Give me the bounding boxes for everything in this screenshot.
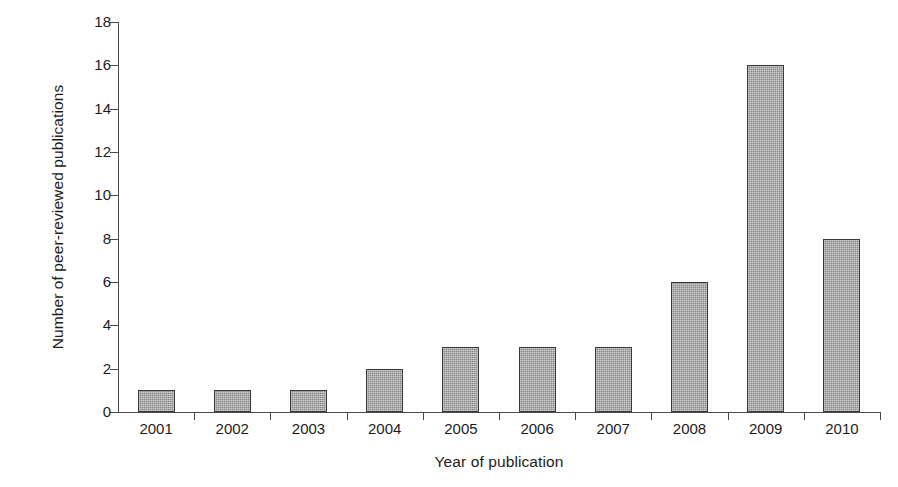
bar — [595, 347, 632, 412]
y-axis-tick-mark — [110, 325, 118, 326]
plot-area: 024681012141618 — [118, 22, 880, 412]
x-axis-tick-label: 2010 — [804, 420, 880, 438]
x-axis-tick-mark — [270, 412, 271, 420]
x-axis-tick-label: 2007 — [575, 420, 651, 438]
x-axis-tick-mark — [804, 412, 805, 420]
y-axis-tick-label: 8 — [103, 230, 111, 247]
x-axis-tick-mark — [880, 412, 881, 420]
bar — [366, 369, 403, 412]
x-axis-tick-label: 2009 — [728, 420, 804, 438]
x-axis-tick-mark — [423, 412, 424, 420]
y-axis-title: Number of peer-reviewed publications — [49, 17, 67, 417]
x-axis-tick-label: 2006 — [499, 420, 575, 438]
x-axis-tick-label: 2005 — [423, 420, 499, 438]
x-axis-tick-mark — [347, 412, 348, 420]
x-axis-tick-mark — [575, 412, 576, 420]
x-axis-tick-label: 2008 — [651, 420, 727, 438]
bar — [290, 390, 327, 412]
y-axis-tick-mark — [110, 369, 118, 370]
y-axis-tick-mark — [110, 109, 118, 110]
y-axis-tick-label: 4 — [103, 316, 111, 333]
bar — [671, 282, 708, 412]
y-axis-tick-label: 2 — [103, 360, 111, 377]
y-axis-tick-mark — [110, 239, 118, 240]
y-axis-tick-mark — [110, 65, 118, 66]
bar-chart: Number of peer-reviewed publications 024… — [0, 0, 898, 487]
x-axis-tick-mark — [728, 412, 729, 420]
bar — [823, 239, 860, 412]
y-axis-tick-mark — [110, 412, 118, 413]
y-axis-tick-label: 6 — [103, 273, 111, 290]
x-axis-tick-label: 2002 — [194, 420, 270, 438]
bar — [747, 65, 784, 412]
y-axis-tick-mark — [110, 195, 118, 196]
y-axis-tick-label: 16 — [94, 56, 111, 73]
bar — [442, 347, 479, 412]
x-axis-tick-mark — [651, 412, 652, 420]
y-axis-tick-label: 0 — [103, 403, 111, 420]
y-axis-tick-label: 14 — [94, 100, 111, 117]
y-axis-tick-label: 18 — [94, 13, 111, 30]
y-axis-tick-mark — [110, 22, 118, 23]
x-axis-title: Year of publication — [118, 453, 880, 471]
y-axis-tick-mark — [110, 152, 118, 153]
x-axis-tick-mark — [499, 412, 500, 420]
bar — [214, 390, 251, 412]
x-axis-tick-mark — [194, 412, 195, 420]
bar — [138, 390, 175, 412]
bar — [519, 347, 556, 412]
x-axis-tick-label: 2004 — [347, 420, 423, 438]
y-axis-tick-label: 12 — [94, 143, 111, 160]
x-axis-tick-label: 2001 — [118, 420, 194, 438]
y-axis-tick-label: 10 — [94, 186, 111, 203]
y-axis-tick-mark — [110, 282, 118, 283]
x-axis-tick-label: 2003 — [270, 420, 346, 438]
